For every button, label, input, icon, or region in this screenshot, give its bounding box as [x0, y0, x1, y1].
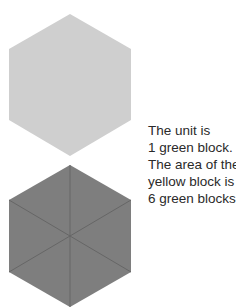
green-blocks-hexagon [9, 165, 131, 307]
caption-text: The unit is 1 green block. The area of t… [148, 122, 236, 207]
caption-line: The unit is [148, 122, 236, 139]
caption-line: 1 green block. [148, 139, 236, 156]
caption-line: yellow block is [148, 173, 236, 190]
caption-line: 6 green blocks. [148, 190, 236, 207]
yellow-block-hexagon [9, 14, 131, 156]
caption-line: The area of the [148, 156, 236, 173]
